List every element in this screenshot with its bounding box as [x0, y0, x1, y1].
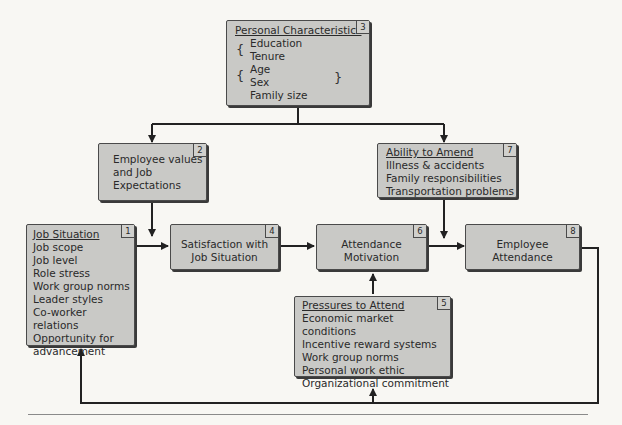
- list-item: Tenure: [250, 50, 369, 63]
- node-line: Employee: [466, 238, 579, 251]
- list-item: Economic market conditions: [302, 312, 450, 338]
- list-item: Opportunity for: [33, 332, 134, 345]
- list-item: Work group norms: [33, 280, 134, 293]
- node-title: Pressures to Attend: [302, 299, 450, 312]
- node-number: 7: [503, 144, 516, 157]
- list-item: Job level: [33, 254, 134, 267]
- list-item: Education: [250, 37, 369, 50]
- node-title: Job Situation: [33, 228, 134, 241]
- node-title: Personal Characteristics: [235, 24, 369, 37]
- node-line: Expectations: [113, 179, 206, 192]
- node-number: 6: [413, 225, 426, 238]
- node-personal-characteristics: 3 Personal Characteristics { { } Educati…: [226, 20, 370, 106]
- node-employee-values: 2 Employee values and Job Expectations: [98, 143, 207, 201]
- list-item: Organizational commitment: [302, 377, 450, 390]
- list-item: advancement: [33, 345, 134, 358]
- node-number: 4: [265, 225, 278, 238]
- node-number: 8: [566, 225, 579, 238]
- list-item: Role stress: [33, 267, 134, 280]
- node-line: Attendance: [466, 251, 579, 264]
- node-number: 1: [121, 225, 134, 238]
- node-satisfaction: 4 Satisfaction with Job Situation: [170, 224, 279, 270]
- node-line: Motivation: [317, 251, 426, 264]
- list-item: Age: [250, 63, 369, 76]
- node-line: Satisfaction with: [171, 238, 278, 251]
- left-brace-continued: {: [236, 63, 244, 89]
- node-attendance-motivation: 6 Attendance Motivation: [316, 224, 427, 270]
- list-item: Transportation problems: [386, 185, 516, 198]
- node-ability-to-amend: 7 Ability to Amend Illness & accidents F…: [377, 143, 517, 198]
- list-item: Leader styles: [33, 293, 134, 306]
- list-item: Personal work ethic: [302, 364, 450, 377]
- list-item: Family size: [250, 89, 369, 102]
- node-number: 5: [437, 297, 450, 310]
- divider-rule: [28, 414, 588, 415]
- list-item: Illness & accidents: [386, 159, 516, 172]
- list-item: Work group norms: [302, 351, 450, 364]
- node-job-situation: 1 Job Situation Job scope Job level Role…: [26, 224, 135, 346]
- node-line: Attendance: [317, 238, 426, 251]
- node-number: 2: [193, 144, 206, 157]
- list-item: Co-worker relations: [33, 306, 134, 332]
- left-brace: {: [236, 37, 244, 63]
- node-number: 3: [356, 21, 369, 34]
- list-item: Incentive reward systems: [302, 338, 450, 351]
- node-pressures-to-attend: 5 Pressures to Attend Economic market co…: [294, 296, 451, 377]
- list-item: Job scope: [33, 241, 134, 254]
- list-item: Family responsibilities: [386, 172, 516, 185]
- node-line: Job Situation: [171, 251, 278, 264]
- node-line: and Job: [113, 166, 206, 179]
- node-title: Ability to Amend: [386, 146, 516, 159]
- right-brace: }: [334, 65, 342, 91]
- list-item: Sex: [250, 76, 369, 89]
- node-employee-attendance: 8 Employee Attendance: [465, 224, 580, 270]
